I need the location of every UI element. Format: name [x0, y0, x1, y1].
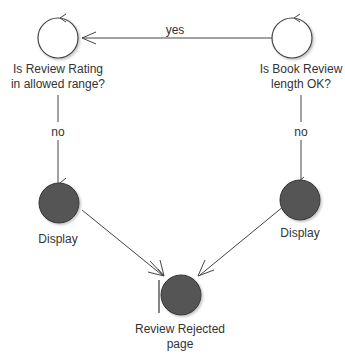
state-label-line2: length OK? — [271, 77, 331, 91]
edge-yes: yes — [82, 23, 276, 44]
edge-display-right-to-rejected — [198, 206, 284, 276]
edge-display-left-to-rejected — [82, 210, 164, 276]
edge-no-left: no — [51, 95, 66, 188]
state-label-line1: Review Rejected — [135, 322, 225, 336]
state-label-line1: Is Review Rating — [13, 62, 103, 76]
state-length-check[interactable]: Is Book Review length OK? — [260, 14, 343, 91]
state-label-line2: in allowed range? — [11, 77, 105, 91]
state-rejected[interactable]: Review Rejected page — [135, 275, 225, 351]
edge-label-no-left: no — [51, 125, 65, 139]
state-label: Display — [38, 232, 77, 246]
edge-no-right: no — [291, 95, 308, 188]
edge-label-yes: yes — [166, 23, 185, 37]
state-label: Display — [280, 226, 319, 240]
edge-label-no-right: no — [294, 125, 308, 139]
state-label-line1: Is Book Review — [260, 62, 343, 76]
state-rating-check[interactable]: Is Review Rating in allowed range? — [11, 14, 105, 91]
state-display-right[interactable]: Display — [280, 180, 320, 240]
state-display-left[interactable]: Display — [38, 183, 79, 246]
state-label-line2: page — [167, 337, 194, 351]
statechart-diagram: yes no no Is Review Rating in allowed ra… — [0, 0, 345, 363]
